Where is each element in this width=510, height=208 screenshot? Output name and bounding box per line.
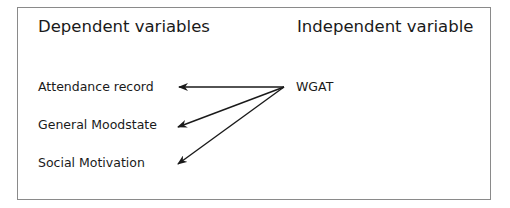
node-general-moodstate: General Moodstate xyxy=(38,117,157,132)
heading-independent-variable: Independent variable xyxy=(297,17,473,36)
node-attendance-record: Attendance record xyxy=(38,79,154,94)
node-social-motivation: Social Motivation xyxy=(38,155,145,170)
heading-dependent-variables: Dependent variables xyxy=(38,17,210,36)
node-wgat: WGAT xyxy=(296,79,333,94)
